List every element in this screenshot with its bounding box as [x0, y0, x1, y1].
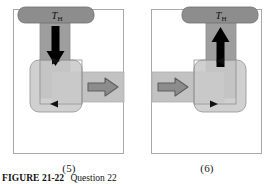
diagram-panel-6: TH (6) — [146, 4, 268, 162]
diagram-panel-5: TH (5) — [8, 4, 130, 162]
panels-row: TH (5) — [0, 0, 274, 166]
reservoir-label-sub-5: H — [57, 15, 62, 23]
figure-caption-text: Question 22 — [70, 173, 116, 183]
figure-caption-number: 21-22 — [42, 173, 64, 183]
figure-caption: FIGURE 21-22 Question 22 — [2, 173, 274, 184]
panel-5-graphic: TH — [8, 4, 130, 162]
panel-6-graphic: TH — [146, 4, 268, 162]
reservoir-label-sub-6: H — [221, 15, 226, 23]
figure-caption-label: FIGURE — [2, 173, 40, 183]
figure-container: TH (5) — [0, 0, 274, 184]
